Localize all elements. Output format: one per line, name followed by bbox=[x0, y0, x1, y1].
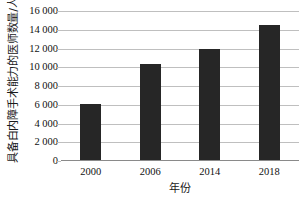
x-axis-title: 年份 bbox=[61, 182, 299, 196]
bar bbox=[199, 49, 220, 160]
bar-chart-figure: 具备白内障手术能力的医师数量/人 02 0004 0006 0008 00010… bbox=[0, 0, 306, 203]
y-axis-tick-mark bbox=[57, 67, 61, 68]
y-axis-tick-mark bbox=[57, 11, 61, 12]
y-axis-tick-label: 10 000 bbox=[18, 62, 58, 72]
x-axis-tick-label: 2018 bbox=[246, 166, 292, 178]
y-axis-tick-label: 8 000 bbox=[18, 81, 58, 91]
x-axis-tick-label: 2014 bbox=[187, 166, 233, 178]
y-axis-tick-mark bbox=[57, 161, 61, 162]
y-axis-tick-label: 14 000 bbox=[18, 25, 58, 35]
y-axis-tick-label: 12 000 bbox=[18, 44, 58, 54]
y-axis-tick-mark bbox=[57, 49, 61, 50]
bar bbox=[80, 104, 101, 160]
x-axis-line bbox=[61, 160, 299, 161]
y-axis-tick-label: 16 000 bbox=[18, 6, 58, 16]
y-axis-tick-mark bbox=[57, 124, 61, 125]
y-axis-tick-mark bbox=[57, 142, 61, 143]
y-axis-tick-label: 6 000 bbox=[18, 100, 58, 110]
y-axis-tick-label: 0 bbox=[18, 156, 58, 166]
plot-area bbox=[61, 11, 299, 161]
x-axis-tick-labels: 2000200620142018 bbox=[61, 166, 299, 180]
y-axis-tick-label: 2 000 bbox=[18, 137, 58, 147]
x-axis-tick-label: 2006 bbox=[127, 166, 173, 178]
x-axis-tick-label: 2000 bbox=[68, 166, 114, 178]
bar bbox=[140, 64, 161, 160]
bar bbox=[259, 25, 280, 160]
y-axis-tick-label: 4 000 bbox=[18, 119, 58, 129]
y-axis-tick-labels: 02 0004 0006 0008 00010 00012 00014 0001… bbox=[18, 11, 58, 163]
gridline bbox=[61, 11, 299, 12]
y-axis-tick-mark bbox=[57, 105, 61, 106]
y-axis-tick-mark bbox=[57, 86, 61, 87]
y-axis-tick-mark bbox=[57, 30, 61, 31]
